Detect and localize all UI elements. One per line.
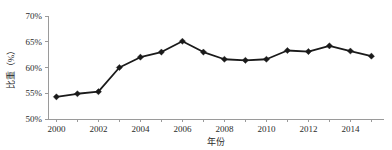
data-point-marker — [179, 38, 185, 44]
x-tick-label: 2014 — [341, 124, 360, 134]
y-tick-label: 70% — [26, 11, 43, 21]
y-tick-label: 55% — [26, 88, 43, 98]
y-tick-label: 60% — [26, 63, 43, 73]
data-point-marker — [284, 47, 290, 53]
data-point-marker — [305, 48, 311, 54]
y-axis-title: 比重（%） — [5, 46, 16, 90]
data-point-marker — [347, 48, 353, 54]
x-tick-label: 2000 — [47, 124, 66, 134]
y-tick-label: 65% — [26, 37, 43, 47]
data-point-marker — [200, 49, 206, 55]
data-point-marker — [368, 53, 374, 59]
x-tick-label: 2008 — [215, 124, 234, 134]
x-axis-title: 年份 — [207, 136, 225, 147]
line-chart: 50%55%60%65%70%2000200220042006200820102… — [0, 0, 392, 150]
y-tick-label: 50% — [26, 114, 43, 124]
data-point-marker — [53, 94, 59, 100]
data-point-marker — [137, 54, 143, 60]
data-point-marker — [74, 91, 80, 97]
x-tick-label: 2006 — [173, 124, 192, 134]
x-tick-label: 2002 — [89, 124, 107, 134]
data-point-marker — [242, 57, 248, 63]
chart-canvas: 50%55%60%65%70%2000200220042006200820102… — [0, 0, 392, 150]
x-tick-label: 2010 — [257, 124, 276, 134]
x-tick-label: 2004 — [131, 124, 150, 134]
data-point-marker — [263, 56, 269, 62]
series-line — [56, 41, 371, 97]
data-point-marker — [158, 49, 164, 55]
data-point-marker — [221, 56, 227, 62]
x-tick-label: 2012 — [299, 124, 317, 134]
data-point-marker — [326, 43, 332, 49]
